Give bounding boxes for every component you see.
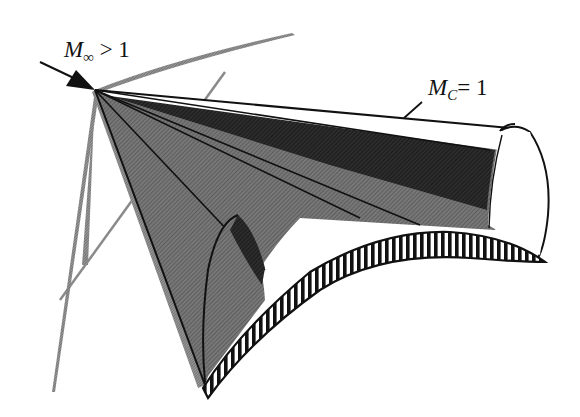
mach-symbol: M bbox=[428, 75, 447, 100]
mach-relation: = 1 bbox=[457, 75, 487, 100]
flow-diagram: M∞ > 1 MC= 1 bbox=[0, 0, 580, 417]
freestream-mach-label: M∞ > 1 bbox=[64, 38, 130, 61]
mach-relation: > 1 bbox=[94, 37, 130, 62]
mach-subscript: ∞ bbox=[83, 49, 94, 65]
mach-symbol: M bbox=[64, 37, 83, 62]
freestream-arrow bbox=[40, 62, 95, 90]
sonic-label-leader bbox=[404, 102, 422, 118]
mach-subscript: C bbox=[447, 87, 457, 103]
sonic-mach-label: MC= 1 bbox=[428, 76, 487, 99]
